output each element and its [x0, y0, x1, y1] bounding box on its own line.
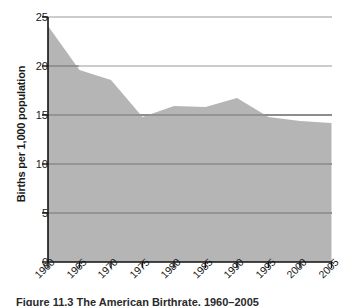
y-tick-labels: 25 20 15 10 5 0: [0, 0, 48, 306]
area-series-births: [48, 26, 332, 262]
y-tick-label: 10: [24, 159, 48, 169]
y-tick-label: 5: [24, 208, 48, 218]
y-tick-label: 25: [24, 12, 48, 22]
figure-caption: Figure 11.3 The American Birthrate, 1960…: [16, 297, 326, 306]
birthrate-area-chart: Births per 1,000 population: [0, 0, 339, 306]
y-tick-label: 20: [24, 61, 48, 71]
y-tick-label: 15: [24, 110, 48, 120]
